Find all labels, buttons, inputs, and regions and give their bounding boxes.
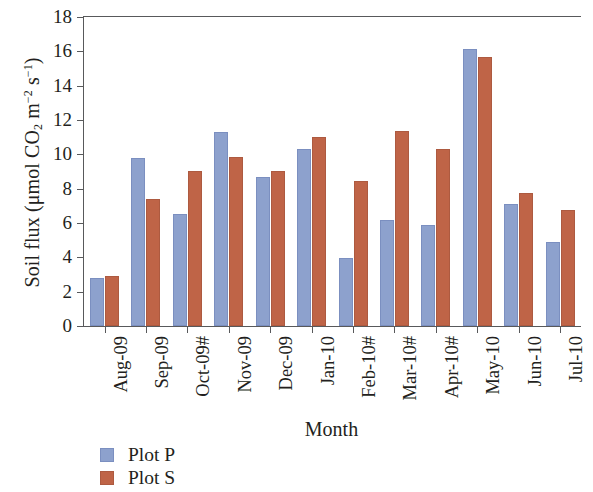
bar-plot-p[interactable]: [90, 278, 104, 326]
x-axis-tick-label: Aug-09: [104, 226, 125, 336]
y-axis-tick: [77, 292, 84, 293]
y-axis-tick: [77, 257, 84, 258]
bar-plot-p[interactable]: [173, 214, 187, 326]
x-axis-tick-label: Oct-09#: [186, 226, 207, 336]
y-axis-tick-label: 14: [53, 74, 72, 96]
y-axis-tick-label: 6: [63, 212, 73, 234]
legend-label: Plot P: [128, 444, 175, 466]
y-axis-tick: [77, 120, 84, 121]
x-axis-tick-label: Jun-10: [518, 226, 539, 336]
y-axis-tick-label: 4: [63, 246, 73, 268]
y-axis-title: Soil flux (μmol CO2 m−2 s−1): [21, 8, 46, 338]
bar-plot-p[interactable]: [421, 225, 435, 326]
x-axis-tick-label: Apr-10#: [435, 226, 456, 336]
bar-plot-p[interactable]: [339, 258, 353, 326]
soil-flux-bar-chart: Soil flux (μmol CO2 m−2 s−1) 02468101214…: [0, 0, 593, 492]
y-axis-tick-label: 18: [53, 6, 72, 28]
y-axis-tick-label: 0: [63, 315, 73, 337]
bar-plot-p[interactable]: [214, 132, 228, 326]
y-axis-title-pre: Soil flux (: [21, 205, 43, 287]
y-axis-tick-label: 16: [53, 40, 72, 62]
x-axis-tick-label: Jul-10: [559, 226, 580, 336]
legend-item-plot-s[interactable]: Plot S: [100, 466, 175, 489]
y-axis-tick-label: 10: [53, 143, 72, 165]
bar-plot-p[interactable]: [131, 158, 145, 326]
x-axis-tick-label: Mar-10#: [393, 226, 414, 336]
bar-plot-p[interactable]: [256, 177, 270, 326]
x-axis-tick-label: Jan-10: [311, 226, 332, 336]
y-axis-tick: [77, 326, 84, 327]
y-axis-tick: [77, 51, 84, 52]
x-axis-tick-label: Feb-10#: [352, 226, 373, 336]
y-axis-tick: [77, 154, 84, 155]
bar-plot-p[interactable]: [504, 204, 518, 326]
bar-plot-p[interactable]: [463, 49, 477, 326]
y-axis-tick: [77, 86, 84, 87]
x-axis-tick-label: Sep-09: [145, 226, 166, 336]
y-axis-tick: [77, 223, 84, 224]
y-axis-title-sub1: 2: [31, 124, 45, 130]
y-axis-title-mid2: s: [21, 77, 43, 90]
y-axis-tick-label: 12: [53, 109, 72, 131]
y-axis-title-mid: m: [21, 103, 43, 124]
y-axis-tick: [77, 17, 84, 18]
legend-label: Plot S: [128, 467, 175, 489]
legend-swatch-icon: [100, 448, 114, 462]
legend-item-plot-p[interactable]: Plot P: [100, 443, 175, 466]
bar-plot-p[interactable]: [297, 149, 311, 326]
bar-plot-p[interactable]: [546, 242, 560, 326]
y-axis-tick-label: 2: [63, 280, 73, 302]
chart-legend: Plot PPlot S: [100, 443, 175, 489]
bar-plot-p[interactable]: [380, 220, 394, 326]
x-axis-tick-label: Nov-09: [228, 226, 249, 336]
legend-swatch-icon: [100, 471, 114, 485]
y-axis-title-sup2: −1: [21, 64, 35, 77]
x-axis-tick-label: May-10: [476, 226, 497, 336]
y-axis-title-mu: μmol CO: [21, 130, 43, 205]
y-axis-title-post: ): [21, 57, 43, 64]
x-axis-title: Month: [83, 418, 580, 441]
y-axis-tick-label: 8: [63, 177, 73, 199]
y-axis-tick: [77, 189, 84, 190]
y-axis-title-sup1: −2: [21, 90, 35, 103]
x-axis-tick-label: Dec-09: [269, 226, 290, 336]
